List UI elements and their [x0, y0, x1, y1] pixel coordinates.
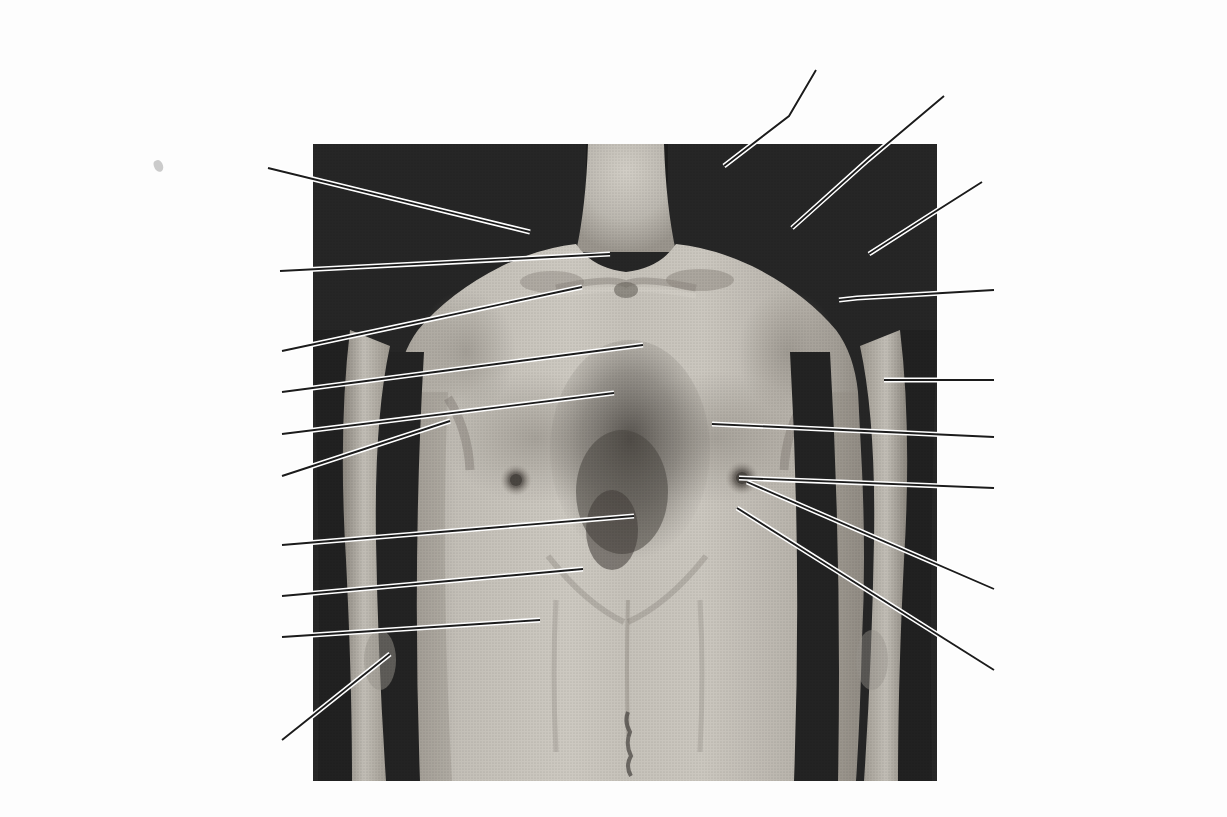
linea-semilunaris-right [700, 600, 702, 752]
chest-hair-lower [586, 490, 638, 570]
linea-semilunaris-left [554, 600, 556, 752]
cubital-fossa-right [856, 630, 888, 690]
anterior-thorax-photograph [313, 144, 937, 781]
neck [576, 144, 676, 252]
figure-canvas [0, 0, 1227, 817]
supraclavicular-fossa-right [666, 269, 734, 291]
suprasternal-notch [614, 282, 638, 298]
anatomy-figure [0, 0, 1227, 817]
nipple-left [510, 474, 522, 486]
